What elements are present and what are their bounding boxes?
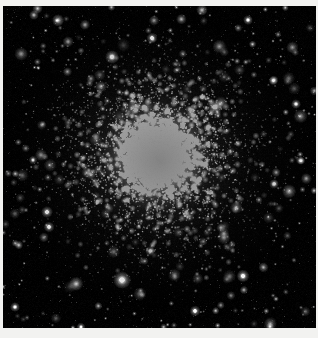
- globular-cluster-photograph: [3, 6, 316, 328]
- image-border-right: [316, 0, 318, 338]
- astronomical-image-viewport: Globular Star Cluster Monochrome astrono…: [0, 0, 318, 338]
- image-border-bottom: [0, 328, 318, 338]
- night-sky-frame: [3, 6, 316, 328]
